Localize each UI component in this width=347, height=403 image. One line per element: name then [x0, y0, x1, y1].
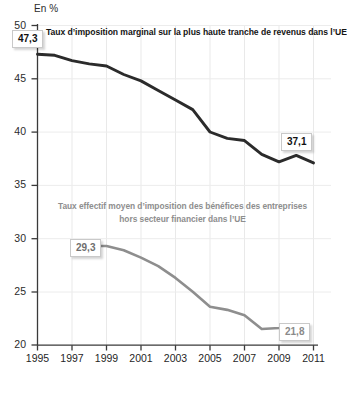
x-tick-label-1999: 1999: [90, 352, 124, 364]
y-tick-label-25: 25: [4, 285, 26, 297]
series-1-title: Taux d’imposition marginal sur la plus h…: [46, 27, 347, 37]
x-tick-label-2009: 2009: [262, 352, 296, 364]
x-tick-label-2007: 2007: [228, 352, 262, 364]
x-tick-label-2003: 2003: [159, 352, 193, 364]
value-callout-series2-start: 29,3: [70, 239, 101, 257]
y-tick-label-30: 30: [4, 232, 26, 244]
y-tick-label-20: 20: [4, 338, 26, 350]
y-tick-label-45: 45: [4, 72, 26, 84]
x-tick-label-1997: 1997: [55, 352, 89, 364]
y-tick-label-35: 35: [4, 178, 26, 190]
value-callout-series1-end: 37,1: [281, 133, 312, 151]
series-2-title-line-1: Taux effectif moyen d’imposition des bén…: [58, 201, 307, 211]
series-2-title: Taux effectif moyen d’imposition des bén…: [55, 200, 310, 226]
value-callout-series1-start: 47,3: [12, 30, 43, 48]
x-tick-label-2005: 2005: [193, 352, 227, 364]
y-tick-label-40: 40: [4, 125, 26, 137]
y-axis-unit-label: En %: [34, 3, 58, 14]
x-tick-label-2011: 2011: [297, 352, 331, 364]
x-tick-label-2001: 2001: [124, 352, 158, 364]
value-callout-series2-end: 21,8: [279, 323, 310, 341]
x-tick-label-1995: 1995: [21, 352, 55, 364]
series-2-title-line-2: hors secteur financier dans l’UE: [119, 214, 245, 224]
